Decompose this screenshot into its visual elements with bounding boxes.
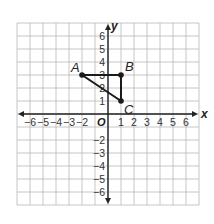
x-tick-label: −5 [37,116,49,128]
x-tick-label: 4 [157,116,163,128]
y-tick-label: 1 [99,95,105,107]
y-tick-label: 4 [99,56,105,68]
x-tick-labels: −6−5−4−3−2123456 [24,116,189,128]
x-tick-label: −2 [76,116,88,128]
x-tick-label: 3 [144,116,150,128]
point-label-c: C [124,102,134,117]
point-label-a: A [70,60,80,75]
x-axis-arrow-right-icon [192,111,198,117]
point-b [118,72,124,78]
x-axis-label: x [200,107,209,121]
coordinate-plane: −6−5−4−3−2123456 654321−2−3−4−5−6 ABC x … [0,0,214,224]
y-tick-label: −2 [93,134,105,146]
y-tick-label: 6 [99,30,105,42]
y-tick-label: −4 [93,160,105,172]
axes [18,24,198,204]
x-tick-label: 1 [118,116,124,128]
y-tick-label: −6 [93,186,105,198]
y-axis-label: y [110,19,119,33]
y-axis-arrow-down-icon [105,198,111,204]
y-tick-label: 5 [99,43,105,55]
x-tick-label: −3 [63,116,75,128]
x-tick-label: 6 [183,116,189,128]
point-a [79,72,85,78]
y-tick-label: −5 [93,173,105,185]
point-c [118,98,124,104]
x-tick-label: 5 [170,116,176,128]
y-tick-label: −3 [93,147,105,159]
x-tick-label: −4 [50,116,62,128]
origin-label: O [97,116,106,128]
x-tick-label: −6 [24,116,36,128]
point-label-b: B [125,59,134,74]
x-tick-label: 2 [131,116,137,128]
